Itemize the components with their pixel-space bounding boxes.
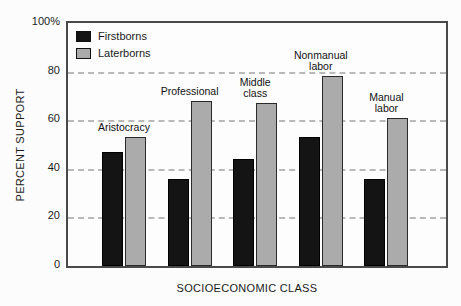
ytick-label-20: 20 [0,209,60,221]
category-label-nonmanual-labor: Nonmanuallabor [266,50,376,72]
bar-firstborns-manual-labor [364,179,385,266]
plot-area: FirstbornsLaterborns AristocracyProfessi… [66,21,448,268]
bar-firstborns-professional [168,179,189,266]
bar-laterborns-manual-labor [387,118,408,266]
bar-chart: PERCENT SUPPORT FirstbornsLaterborns Ari… [0,0,461,306]
category-label-manual-labor: Manuallabor [331,92,441,114]
x-axis-title: SOCIOECONOMIC CLASS [56,282,438,294]
bar-firstborns-middle-class [233,159,254,266]
bar-laterborns-aristocracy [125,137,146,266]
legend-row-firstborns: Firstborns [76,30,151,42]
ytick-label-80: 80 [0,64,60,76]
ytick-label-0: 0 [0,258,60,270]
category-label-aristocracy: Aristocracy [69,122,179,133]
y-axis-title: PERCENT SUPPORT [14,89,26,202]
ytick-label-100: 100% [0,15,60,27]
legend-row-laterborns: Laterborns [76,47,151,59]
ytick-label-60: 60 [0,112,60,124]
legend-swatch-firstborns [76,31,91,42]
bar-laterborns-professional [191,101,212,266]
bar-firstborns-nonmanual-labor [299,137,320,266]
ytick-label-40: 40 [0,161,60,173]
legend: FirstbornsLaterborns [76,30,151,64]
bar-firstborns-aristocracy [102,152,123,266]
category-label-middle-class: Middleclass [200,77,310,99]
bar-laterborns-middle-class [256,103,277,266]
gridline-80 [68,72,446,74]
legend-swatch-laterborns [76,48,91,59]
legend-label-laterborns: Laterborns [98,47,151,59]
legend-label-firstborns: Firstborns [98,30,147,42]
